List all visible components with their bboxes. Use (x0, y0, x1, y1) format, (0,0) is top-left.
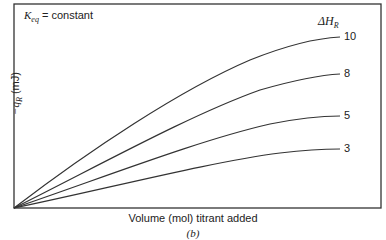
legend-title: ΔHR (318, 14, 339, 30)
curve-8 (14, 74, 340, 208)
keq-annotation: Keq = constant (24, 9, 93, 24)
y-axis-label: −qR (mJ) (9, 64, 24, 124)
x-axis-label: Volume (mol) titrant added (0, 212, 386, 224)
series-label-3: 3 (344, 142, 350, 154)
series-label-10: 10 (344, 30, 356, 42)
series-label-5: 5 (344, 109, 350, 121)
curve-10 (14, 37, 340, 208)
figure-caption: (b) (0, 227, 386, 239)
series-label-8: 8 (344, 67, 350, 79)
chart-plot-area (0, 0, 386, 240)
plot-frame (14, 4, 381, 208)
curve-3 (14, 149, 340, 208)
curve-5 (14, 116, 340, 208)
